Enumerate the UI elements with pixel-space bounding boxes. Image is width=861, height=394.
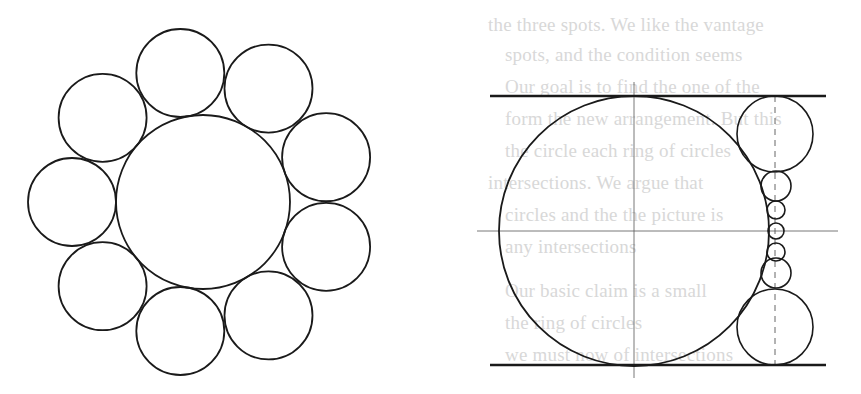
chain-circle xyxy=(761,171,791,201)
chain-circle xyxy=(761,258,791,288)
ring-circle xyxy=(59,74,147,162)
chain-circle xyxy=(767,201,785,219)
ring-circle xyxy=(59,242,147,330)
ring-circle xyxy=(282,203,370,291)
diagram-stage: the three spots. We like the vantagespot… xyxy=(0,0,861,394)
ring-circle xyxy=(28,158,116,246)
circle-packing-diagram xyxy=(0,0,861,394)
left-figure-ring-of-circles xyxy=(28,29,370,375)
ring-circle xyxy=(136,29,224,117)
ring-circle xyxy=(225,271,313,359)
right-figure-circle-chain xyxy=(477,82,838,378)
ring-circle xyxy=(136,287,224,375)
central-circle xyxy=(116,115,290,289)
ring-circle xyxy=(282,113,370,201)
ring-circle xyxy=(225,45,313,133)
